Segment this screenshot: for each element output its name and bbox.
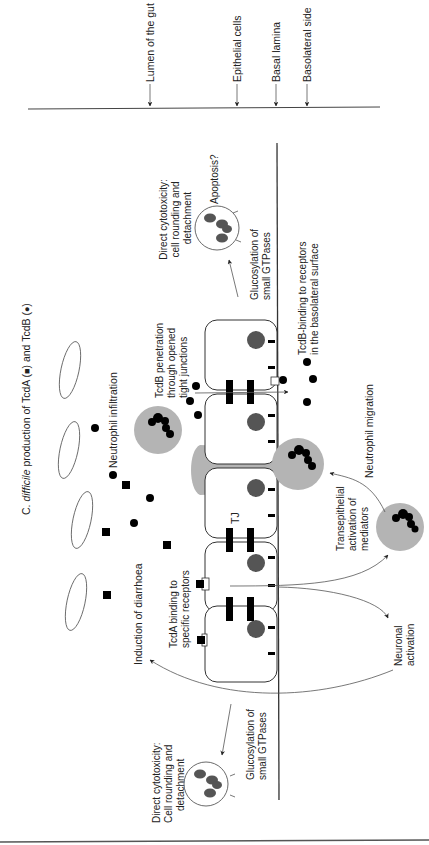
layer-arrow-epithelial: Epithelial cells [231,15,243,106]
tcdb-circle-icon [309,375,317,383]
tcdb-circle-icon [146,494,154,502]
epithelial-cells [205,320,277,682]
arrow-cytotoxicity-bottom-icon [222,704,231,755]
layer-arrow-lumen: Lumen of the gut [144,3,156,106]
nucleus [247,413,265,431]
epithelial-cell [205,394,277,464]
label-induction-diarrhoea: Induction of diarrhoea [132,563,144,665]
tcda-square-icon [197,636,205,644]
nucleus [247,554,265,572]
epithelial-cell [205,320,277,390]
epithelial-cell [205,468,277,538]
label-tcdb-penetration: TcdB penetration through opened tight ju… [154,320,189,398]
tcdb-circle-icon [109,471,117,479]
label-lumen: Lumen of the gut [144,3,156,82]
label-cytotoxicity-top: Direct cytotoxicity: cell rounding and d… [158,176,193,259]
tcda-square-icon [163,541,171,549]
tcdb-circle-icon [91,424,99,432]
nucleus [247,331,265,349]
basolateral-receptor [271,377,279,385]
label-neutrophil-migration: Neutrophil migration [363,384,375,478]
label-neuronal-activation: Neuronal activation [393,623,416,666]
layer-legend: Lumen of the gut Epithelial cells Basal … [28,3,380,109]
label-cytotoxicity-bottom: Direct cytotoxicity: Cell rounding and d… [151,740,186,823]
bacterium-icon [61,572,91,632]
epithelial-cell [205,542,277,612]
nucleus [247,620,265,638]
neutrophil-lumen [134,406,182,454]
tcdb-circle-icon [303,358,311,366]
label-glucosylation-top: Glucosylation of small GTPases [249,226,272,300]
tcda-square-icon [196,580,204,588]
layer-arrow-basolateral: Basolateral side [301,7,313,106]
rounded-cell-icon [195,206,239,250]
label-tcda-binding: TcdA binding to specific receptors [168,570,191,648]
rounded-cell-top [195,206,241,250]
tcdb-circle-icon [279,376,287,384]
label-basolateral: Basolateral side [301,7,313,82]
layer-arrow-basal: Basal lamina [270,22,282,106]
label-tcdb-binding: TcdB-binding to receptors in the basolat… [297,239,320,355]
reference-line [28,107,380,109]
bacterium-icon [55,340,85,400]
bacteria [54,340,97,632]
tcda-square-icon [103,591,111,599]
penetration-arrow-icon [195,392,288,393]
bottom-border-line [0,840,429,842]
tcdb-toxins [91,358,317,527]
tcda-square-icon [122,481,130,489]
bacterium-icon [54,420,84,480]
label-glucosylation-bottom: Glucosylation of small GTPases [245,706,268,780]
nucleus [247,479,265,497]
tcdb-circle-icon [303,398,311,406]
tcdb-circle-icon [130,519,138,527]
bacterium-icon [67,490,97,550]
label-apoptosis: Apoptosis? [209,154,220,204]
arrow-cytotoxicity-top-icon [229,260,238,297]
tcdb-circle-icon [192,382,200,390]
label-neutrophil-infiltration: Neutrophil infiltration [107,372,119,468]
neutrophil-activated [376,503,424,551]
label-epithelial: Epithelial cells [231,15,243,82]
label-basal-lamina: Basal lamina [270,22,282,82]
rounded-cell-bottom [184,762,235,806]
neutrophil-migrating [272,438,324,490]
epithelial-cell [205,606,277,682]
tcda-square-icon [102,528,110,536]
arrow-neuronal-icon [278,587,388,618]
label-transepithelial: Transepithelial activation of mediators [335,484,370,551]
figure-title: C. difficile production of TcdA (■) and … [20,303,32,515]
pathogenesis-diagram: Lumen of the gut Epithelial cells Basal … [0,0,429,845]
label-tj: TJ [229,512,241,524]
tcdb-circle-icon [194,411,202,419]
